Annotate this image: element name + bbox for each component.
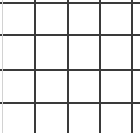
grid-cell-r4c4[interactable] [101,104,131,133]
grid-cell-r3c4[interactable] [101,71,131,102]
grid-cell-r2c1[interactable] [4,36,34,69]
grid-canvas [0,0,140,133]
vertical-line-2 [34,0,36,133]
grid-cell-r2c2[interactable] [36,36,67,69]
horizontal-line-2 [0,34,140,36]
horizontal-line-1 [0,2,140,4]
grid-cell-r4c1[interactable] [4,104,34,133]
grid-cell-r3c1[interactable] [4,71,34,102]
grid-cell-r1c3[interactable] [69,4,99,34]
grid-cell-r3c2[interactable] [36,71,67,102]
vertical-line-5 [131,0,133,133]
grid-cell-r3c3[interactable] [69,71,99,102]
grid-cell-r1c2[interactable] [36,4,67,34]
grid-cell-r1c4[interactable] [101,4,131,34]
grid-cell-r1c1[interactable] [4,4,34,34]
horizontal-line-4 [0,102,140,104]
vertical-line-4 [99,0,101,133]
vertical-line-3 [67,0,69,133]
grid-cell-r2c3[interactable] [69,36,99,69]
horizontal-line-3 [0,69,140,71]
vertical-line-1 [2,0,3,133]
grid-cell-r4c2[interactable] [36,104,67,133]
grid-cell-r4c3[interactable] [69,104,99,133]
grid-cell-r2c4[interactable] [101,36,131,69]
